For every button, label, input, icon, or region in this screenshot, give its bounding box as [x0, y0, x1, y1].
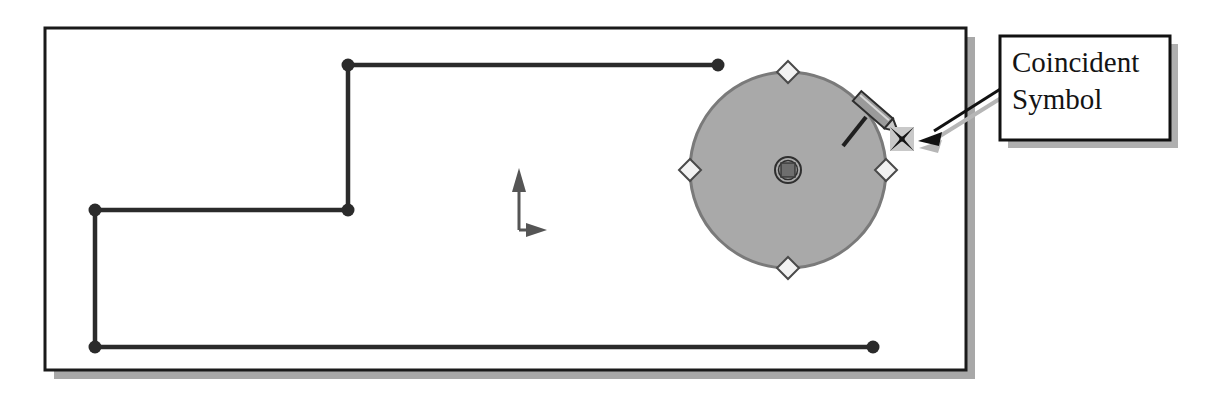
polyline-endpoint[interactable]: [867, 341, 880, 354]
polyline-endpoint[interactable]: [712, 59, 725, 72]
polyline-endpoint[interactable]: [342, 59, 355, 72]
circle-center-square: [781, 163, 795, 177]
callout-label-box[interactable]: [1000, 36, 1170, 140]
polyline-endpoint[interactable]: [89, 204, 102, 217]
coincident-relation-symbol[interactable]: [890, 127, 914, 151]
figure-canvas: Coincident Symbol: [0, 0, 1211, 405]
figure-vector-layer: [0, 0, 1211, 405]
polyline-endpoint[interactable]: [89, 341, 102, 354]
coincident-symbol-center-dot: [899, 136, 904, 141]
circle-center-point[interactable]: [775, 157, 801, 183]
polyline-endpoint[interactable]: [342, 204, 355, 217]
